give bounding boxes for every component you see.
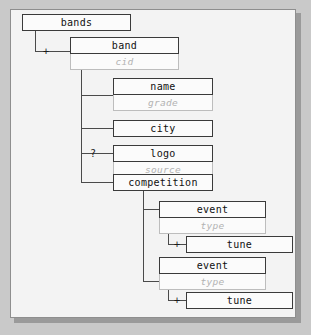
connector-band-children-trunk (81, 70, 82, 182)
node-name-attribute: grade (113, 95, 213, 111)
node-tune-1-label: tune (186, 236, 293, 253)
schema-diagram-canvas: + ? + + bands band cid name grade city l… (0, 0, 311, 335)
node-event-1-attribute: type (159, 218, 266, 234)
node-event-2-label: event (159, 257, 266, 274)
connector-band-to-name (81, 95, 114, 96)
occurrence-marker-tune1: + (172, 240, 182, 250)
node-logo-label: logo (113, 145, 213, 162)
node-event-1-label: event (159, 201, 266, 218)
connector-band-to-city (81, 128, 114, 129)
occurrence-marker-band: + (41, 47, 51, 57)
node-event-2[interactable]: event type (159, 257, 266, 290)
node-city-label: city (113, 120, 213, 137)
connector-competition-children-trunk (143, 191, 144, 281)
connector-bands-to-band-vertical (35, 31, 36, 51)
node-tune-2-label: tune (186, 292, 293, 309)
node-tune-2[interactable]: tune (186, 292, 293, 309)
node-name-label: name (113, 78, 213, 95)
node-bands-label: bands (22, 14, 131, 31)
connector-band-to-competition (81, 182, 114, 183)
occurrence-marker-logo: ? (88, 149, 98, 159)
connector-event1-to-tune1-vertical (168, 234, 169, 244)
node-bands[interactable]: bands (22, 14, 131, 31)
node-band-attribute: cid (70, 54, 179, 70)
node-band-label: band (70, 37, 179, 54)
node-competition-label: competition (113, 174, 213, 191)
node-competition[interactable]: competition (113, 174, 213, 191)
node-name[interactable]: name grade (113, 78, 213, 111)
connector-competition-to-event1 (143, 209, 160, 210)
node-tune-1[interactable]: tune (186, 236, 293, 253)
connector-competition-to-event2 (143, 281, 160, 282)
node-event-1[interactable]: event type (159, 201, 266, 234)
connector-event2-to-tune2-vertical (168, 290, 169, 300)
node-event-2-attribute: type (159, 274, 266, 290)
occurrence-marker-tune2: + (172, 296, 182, 306)
node-band[interactable]: band cid (70, 37, 179, 70)
node-city[interactable]: city (113, 120, 213, 137)
